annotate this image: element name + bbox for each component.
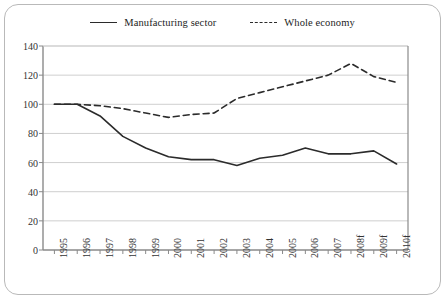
x-tick-label: 2003 (241, 238, 252, 258)
x-tick-label: 2009f (378, 235, 389, 258)
x-tick-label: 2004 (264, 238, 275, 258)
x-tick-label: 2007 (332, 238, 343, 258)
x-tick-label: 2005 (287, 238, 298, 258)
plot-area: 020406080100120140 199519961997199819992… (0, 0, 445, 299)
x-tick-label: 2010f (401, 235, 412, 258)
x-tick-label: 1997 (104, 238, 115, 258)
x-tick-label: 1996 (81, 238, 92, 258)
x-tick-label: 1999 (150, 238, 161, 258)
x-tick-label: 1995 (58, 238, 69, 258)
chart-figure: Manufacturing sector Whole economy 02040… (0, 0, 445, 299)
x-tick-label: 2001 (195, 238, 206, 258)
x-tick-label: 2000 (172, 238, 183, 258)
x-tick-label: 2002 (218, 238, 229, 258)
x-axis-tick-labels: 1995199619971998199920002001200220032004… (0, 0, 445, 299)
x-tick-label: 1998 (127, 238, 138, 258)
x-tick-label: 2006 (309, 238, 320, 258)
x-tick-label: 2008f (355, 235, 366, 258)
